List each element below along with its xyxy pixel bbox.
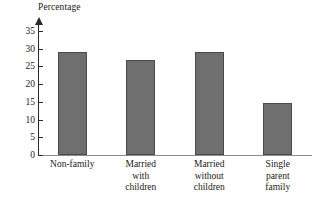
y-tick-label-30: 30 <box>5 44 35 54</box>
x-axis-line <box>38 155 312 156</box>
y-tick-label-5: 5 <box>5 133 35 143</box>
bar <box>195 52 224 155</box>
bar <box>126 60 155 155</box>
bar <box>58 52 87 155</box>
plot-area <box>38 24 312 155</box>
y-tick-label-35: 35 <box>5 27 35 37</box>
bar-chart: Percentage 05101520253035 Non-familyMarr… <box>0 0 319 204</box>
bar <box>263 103 292 155</box>
y-tick-label-10: 10 <box>5 115 35 125</box>
y-tick-label-0: 0 <box>5 151 35 161</box>
y-tick-label-20: 20 <box>5 80 35 90</box>
y-tick-label-15: 15 <box>5 97 35 107</box>
y-axis-title: Percentage <box>38 2 81 13</box>
category-label: Singleparentfamily <box>238 159 318 194</box>
y-tick-label-25: 25 <box>5 62 35 72</box>
y-tick-0 <box>38 155 43 156</box>
